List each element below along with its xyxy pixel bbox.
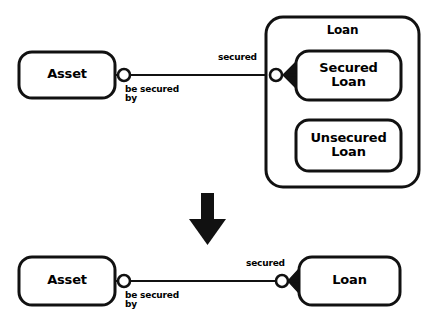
bottom-loan-label: Loan [299, 273, 400, 287]
transform-arrow-icon [189, 193, 226, 245]
top-asset-label: Asset [19, 67, 115, 81]
bottom-left-cardinality-circle [118, 275, 130, 287]
bottom-right-cardinality-circle [276, 275, 288, 287]
bottom-relationship-forward-label: secured [246, 259, 285, 268]
top-right-cardinality-circle [270, 69, 282, 81]
bottom-asset-label: Asset [19, 273, 115, 287]
top-secured-loan-label: Secured Loan [296, 61, 401, 88]
top-loan-group-title: Loan [266, 24, 419, 37]
top-relationship-forward-label: secured [218, 53, 257, 62]
bottom-relationship-reverse-label: be secured by [125, 291, 179, 310]
top-relationship-reverse-label: be secured by [125, 85, 179, 104]
er-diagram-canvas: Asset Loan Secured Loan Unsecured Loan s… [0, 0, 431, 331]
top-unsecured-loan-label: Unsecured Loan [296, 131, 401, 158]
top-left-cardinality-circle [118, 69, 130, 81]
